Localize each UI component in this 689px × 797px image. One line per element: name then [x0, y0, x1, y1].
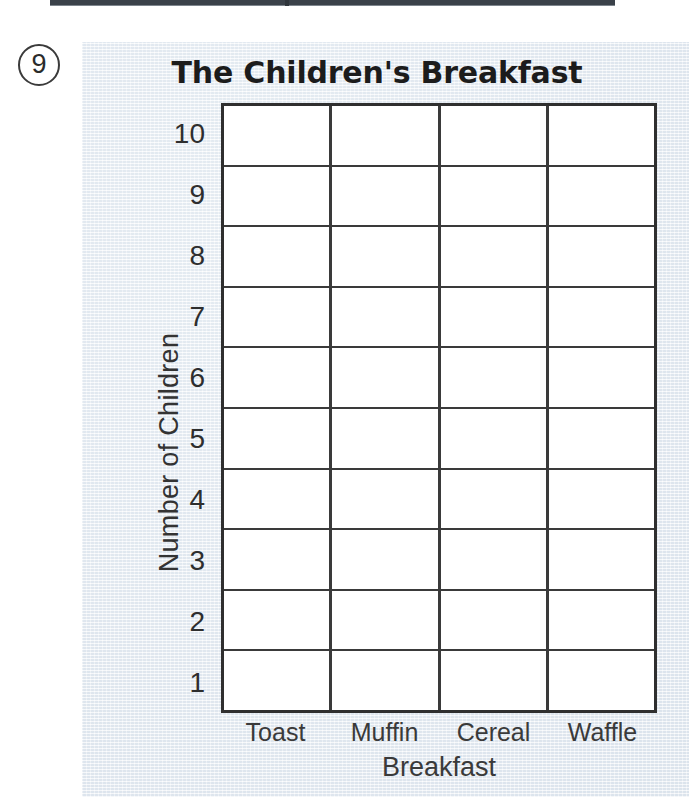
y-tick-label: 4 [142, 469, 214, 530]
grid-cell[interactable] [441, 227, 549, 286]
grid-cell[interactable] [332, 167, 440, 226]
grid-cell[interactable] [441, 348, 549, 407]
grid-cell[interactable] [224, 470, 332, 529]
grid-cell[interactable] [549, 227, 654, 286]
grid-row[interactable] [224, 106, 654, 167]
grid-cell[interactable] [549, 409, 654, 468]
grid-cell[interactable] [441, 591, 549, 650]
grid-cell[interactable] [549, 167, 654, 226]
grid-cell[interactable] [549, 106, 654, 165]
question-number-value: 9 [31, 51, 46, 78]
grid-cell[interactable] [332, 227, 440, 286]
grid-cell[interactable] [224, 227, 332, 286]
grid-cell[interactable] [224, 530, 332, 589]
grid-cell[interactable] [549, 651, 654, 710]
grid-row[interactable] [224, 470, 654, 531]
x-axis-tick-labels: Toast Muffin Cereal Waffle [221, 718, 657, 747]
y-tick-label: 3 [142, 530, 214, 591]
grid-cell[interactable] [549, 591, 654, 650]
question-number-badge: 9 [12, 38, 66, 92]
grid-cell[interactable] [441, 106, 549, 165]
grid-row[interactable] [224, 530, 654, 591]
grid-cell[interactable] [441, 288, 549, 347]
chart-panel: The Children's Breakfast Number of Child… [82, 42, 689, 797]
x-tick-label-muffin: Muffin [330, 718, 439, 747]
x-tick-label-waffle: Waffle [548, 718, 657, 747]
grid-cell[interactable] [332, 348, 440, 407]
grid-cell[interactable] [224, 409, 332, 468]
grid-row[interactable] [224, 651, 654, 710]
grid-cell[interactable] [441, 470, 549, 529]
grid-cell[interactable] [549, 348, 654, 407]
grid-cell[interactable] [224, 288, 332, 347]
y-tick-label: 9 [142, 164, 214, 225]
grid-cell[interactable] [441, 167, 549, 226]
question-number-circle-icon: 9 [18, 44, 60, 86]
y-tick-label: 6 [142, 347, 214, 408]
grid-cell[interactable] [224, 651, 332, 710]
chart-title: The Children's Breakfast [82, 55, 672, 90]
x-axis-title: Breakfast [221, 752, 657, 783]
plot-grid[interactable] [221, 103, 657, 713]
top-rule-left-segment [50, 0, 285, 6]
grid-cell[interactable] [224, 591, 332, 650]
top-rule-right-segment [289, 0, 615, 6]
y-tick-label: 5 [142, 408, 214, 469]
grid-cell[interactable] [224, 106, 332, 165]
grid-cell[interactable] [332, 651, 440, 710]
grid-cell[interactable] [441, 530, 549, 589]
grid-cell[interactable] [332, 288, 440, 347]
grid-row[interactable] [224, 409, 654, 470]
grid-cell[interactable] [332, 591, 440, 650]
grid-row[interactable] [224, 227, 654, 288]
y-tick-label: 2 [142, 591, 214, 652]
top-cropped-rule [0, 0, 689, 12]
x-tick-label-toast: Toast [221, 718, 330, 747]
grid-cell[interactable] [549, 530, 654, 589]
grid-row[interactable] [224, 591, 654, 652]
y-tick-label: 7 [142, 286, 214, 347]
grid-cell[interactable] [224, 167, 332, 226]
x-tick-label-cereal: Cereal [439, 718, 548, 747]
y-tick-label: 8 [142, 225, 214, 286]
grid-cell[interactable] [332, 470, 440, 529]
grid-cell[interactable] [224, 348, 332, 407]
y-tick-label: 10 [142, 103, 214, 164]
y-tick-label: 1 [142, 652, 214, 713]
grid-row[interactable] [224, 167, 654, 228]
grid-row[interactable] [224, 348, 654, 409]
grid-cell[interactable] [441, 409, 549, 468]
grid-cell[interactable] [332, 409, 440, 468]
grid-cell[interactable] [549, 470, 654, 529]
grid-cell[interactable] [332, 530, 440, 589]
grid-cell[interactable] [332, 106, 440, 165]
grid-row[interactable] [224, 288, 654, 349]
grid-cell[interactable] [549, 288, 654, 347]
y-axis-tick-labels: 10 9 8 7 6 5 4 3 2 1 [142, 103, 214, 713]
grid-cell[interactable] [441, 651, 549, 710]
